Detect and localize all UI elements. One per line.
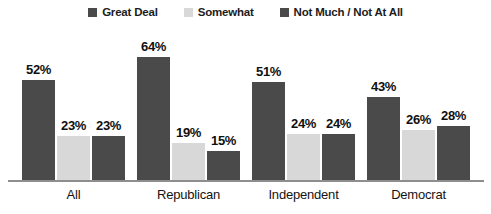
legend-item-not-much-not-at-all: Not Much / Not At All xyxy=(280,7,403,19)
legend-swatch-icon xyxy=(184,8,193,17)
bar-slot: 23% xyxy=(57,30,90,180)
bar-group: 51%24%24% xyxy=(252,30,355,180)
bar-group: 43%26%28% xyxy=(367,30,470,180)
bar xyxy=(137,57,170,180)
bar-slot: 15% xyxy=(207,30,240,180)
bar xyxy=(252,82,285,180)
bar xyxy=(172,143,205,180)
axis-label: Republican xyxy=(137,185,240,205)
bar xyxy=(322,134,355,180)
bar-value-label: 24% xyxy=(326,117,351,130)
legend-item-label: Not Much / Not At All xyxy=(294,7,403,19)
legend-item-somewhat: Somewhat xyxy=(184,7,254,19)
bar-value-label: 43% xyxy=(371,80,396,93)
legend-item-label: Somewhat xyxy=(198,7,254,19)
bar-slot: 26% xyxy=(402,30,435,180)
bar xyxy=(92,136,125,180)
chart-legend: Great Deal Somewhat Not Much / Not At Al… xyxy=(0,7,491,19)
bar xyxy=(367,97,400,180)
bar-chart: Great Deal Somewhat Not Much / Not At Al… xyxy=(0,0,491,214)
bar-value-label: 28% xyxy=(441,109,466,122)
bar-value-label: 26% xyxy=(406,113,431,126)
bar-slot: 19% xyxy=(172,30,205,180)
legend-item-great-deal: Great Deal xyxy=(88,7,158,19)
bar xyxy=(287,134,320,180)
bar-value-label: 23% xyxy=(96,119,121,132)
bar-value-label: 64% xyxy=(141,40,166,53)
bar-slot: 64% xyxy=(137,30,170,180)
bar xyxy=(22,80,55,180)
legend-item-label: Great Deal xyxy=(102,7,158,19)
x-axis-line xyxy=(8,180,484,182)
axis-label: Independent xyxy=(252,185,355,205)
bar-group: 64%19%15% xyxy=(137,30,240,180)
bar-slot: 28% xyxy=(437,30,470,180)
bar-slot: 23% xyxy=(92,30,125,180)
bar xyxy=(207,151,240,180)
bar-value-label: 51% xyxy=(256,65,281,78)
bar-slot: 24% xyxy=(322,30,355,180)
bar-value-label: 15% xyxy=(211,134,236,147)
plot-area: 52%23%23%64%19%15%51%24%24%43%26%28% xyxy=(0,30,491,180)
bar-slot: 51% xyxy=(252,30,285,180)
bar-slot: 43% xyxy=(367,30,400,180)
bar-group: 52%23%23% xyxy=(22,30,125,180)
bar xyxy=(437,126,470,180)
bar xyxy=(57,136,90,180)
bar xyxy=(402,130,435,180)
bar-value-label: 24% xyxy=(291,117,316,130)
legend-swatch-icon xyxy=(280,8,289,17)
bar-slot: 52% xyxy=(22,30,55,180)
axis-label: Democrat xyxy=(367,185,470,205)
bar-value-label: 19% xyxy=(176,126,201,139)
x-axis-labels: AllRepublicanIndependentDemocrat xyxy=(0,185,491,209)
axis-label: All xyxy=(22,185,125,205)
bar-value-label: 52% xyxy=(26,63,51,76)
bar-value-label: 23% xyxy=(61,119,86,132)
legend-swatch-icon xyxy=(88,8,97,17)
bar-slot: 24% xyxy=(287,30,320,180)
